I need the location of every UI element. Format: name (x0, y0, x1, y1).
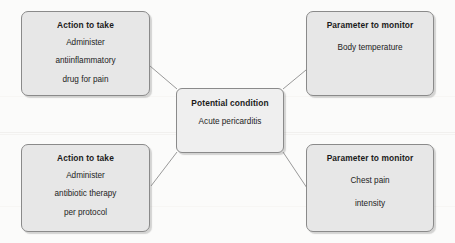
node-body-line: Acute pericarditis (199, 117, 262, 127)
node-body-line: Administer (66, 38, 105, 48)
node-body-line: Administer (66, 171, 105, 181)
node-parameter-to-monitor-bottom[interactable]: Parameter to monitor Chest pain intensit… (306, 144, 434, 232)
diagram-canvas: Action to take Administer antiinflammato… (0, 0, 455, 243)
node-action-to-take-top[interactable]: Action to take Administer antiinflammato… (21, 11, 150, 96)
node-body-line: drug for pain (63, 75, 109, 85)
node-header: Parameter to monitor (327, 153, 414, 163)
node-potential-condition[interactable]: Potential condition Acute pericarditis (176, 88, 284, 153)
node-body-line: intensity (355, 199, 385, 209)
node-header: Action to take (57, 20, 114, 30)
connector-center-to-top-right (283, 70, 306, 89)
node-body-line: Body temperature (337, 43, 402, 53)
node-body-line: antibiotic therapy (55, 189, 117, 199)
node-header: Parameter to monitor (327, 20, 414, 30)
node-body-line: Chest pain (350, 176, 389, 186)
connector-center-to-top-left (150, 66, 177, 89)
connector-center-to-bottom-left (151, 152, 177, 186)
node-parameter-to-monitor-top[interactable]: Parameter to monitor Body temperature (306, 11, 434, 96)
node-header: Action to take (57, 153, 114, 163)
node-body-line: per protocol (64, 208, 107, 218)
node-body-line: antiinflammatory (55, 56, 115, 66)
node-header: Potential condition (191, 98, 268, 108)
node-action-to-take-bottom[interactable]: Action to take Administer antibiotic the… (21, 144, 150, 232)
connector-center-to-bottom-right (283, 152, 307, 188)
